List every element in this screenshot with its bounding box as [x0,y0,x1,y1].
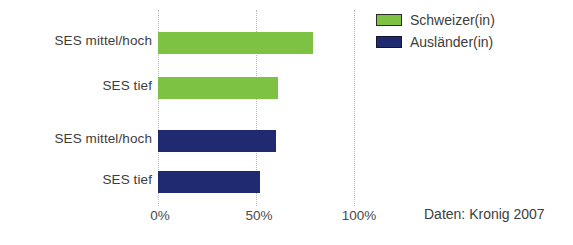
legend-label: Ausländer(in) [410,34,493,50]
bar-auslaender-ses-mittel-hoch [158,130,276,152]
category-label: SES mittel/hoch [4,33,152,48]
x-tick-label-0: 0% [150,208,170,223]
source-note: Daten: Kronig 2007 [424,206,545,222]
x-tick-label-100: 100% [342,208,377,223]
legend-item-schweizer: Schweizer(in) [376,12,495,28]
x-tick-label-50: 50% [245,208,272,223]
bar-auslaender-ses-tief [158,171,260,193]
legend-label: Schweizer(in) [410,12,495,28]
category-label: SES mittel/hoch [4,131,152,146]
legend: Schweizer(in) Ausländer(in) [376,12,495,50]
bar-schweizer-ses-mittel-hoch [158,32,313,54]
bar-schweizer-ses-tief [158,77,278,99]
category-label: SES tief [4,172,152,187]
legend-swatch-icon [376,36,402,48]
gridline-100 [354,10,355,206]
category-label: SES tief [4,78,152,93]
bar-chart: SES mittel/hoch SES tief SES mittel/hoch… [0,0,573,245]
legend-swatch-icon [376,14,402,26]
legend-item-auslaender: Ausländer(in) [376,34,495,50]
